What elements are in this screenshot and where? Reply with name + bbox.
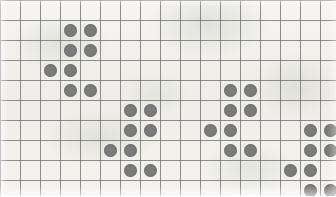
grid-dot <box>64 24 77 37</box>
grid-dot <box>84 84 97 97</box>
grid-dot <box>304 184 317 197</box>
grid-dot <box>284 164 297 177</box>
grid-dot <box>44 64 57 77</box>
grid-dot <box>224 124 237 137</box>
dots-layer <box>0 0 336 196</box>
grid-dot <box>224 104 237 117</box>
grid-dot <box>124 124 137 137</box>
grid-dot <box>64 44 77 57</box>
grid-dot <box>324 144 336 157</box>
grid-dot <box>244 84 257 97</box>
grid-dot <box>204 124 217 137</box>
grid-dot <box>64 84 77 97</box>
grid-dot <box>124 104 137 117</box>
grid-dot <box>64 64 77 77</box>
grid-dot <box>104 144 117 157</box>
grid-dot <box>244 104 257 117</box>
grid-dot <box>224 84 237 97</box>
grid-dot <box>224 144 237 157</box>
grid-dot <box>144 104 157 117</box>
dot-grid-canvas <box>0 0 336 196</box>
grid-dot <box>144 164 157 177</box>
grid-dot <box>124 164 137 177</box>
grid-dot <box>324 184 336 197</box>
grid-dot <box>304 164 317 177</box>
grid-dot <box>244 144 257 157</box>
grid-dot <box>124 144 137 157</box>
grid-dot <box>144 124 157 137</box>
grid-dot <box>304 124 317 137</box>
grid-dot <box>304 144 317 157</box>
grid-dot <box>84 44 97 57</box>
grid-dot <box>84 24 97 37</box>
grid-dot <box>324 124 336 137</box>
